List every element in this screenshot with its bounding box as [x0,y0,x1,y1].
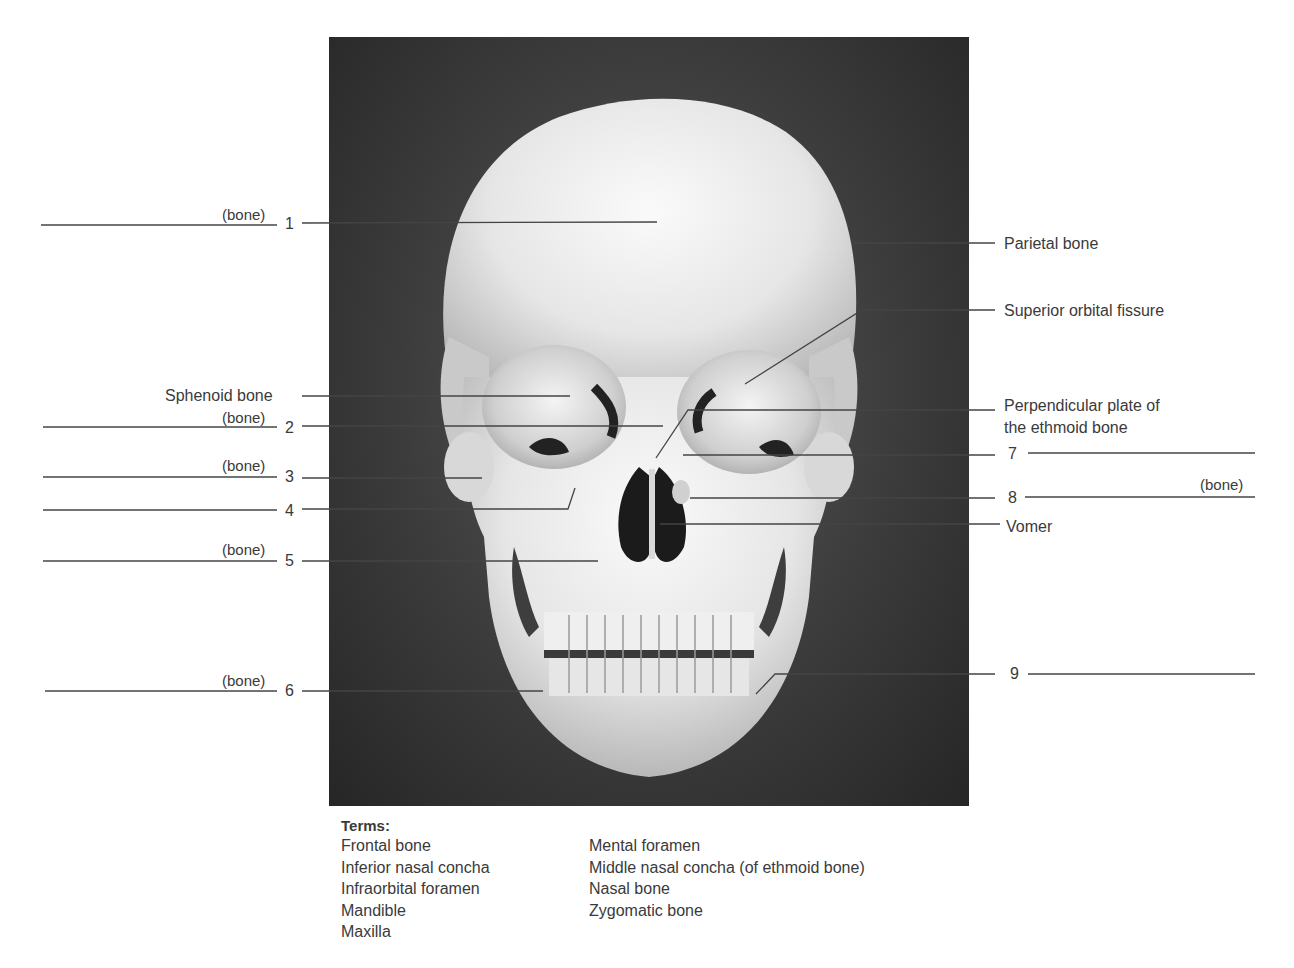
term-item: Infraorbital foramen [341,878,589,900]
label-superior-orbital-fissure: Superior orbital fissure [1004,302,1164,320]
term-item: Zygomatic bone [589,900,865,922]
answer-blank-6[interactable] [45,688,277,694]
label-8-number: 8 [1008,489,1017,507]
answer-blank-5[interactable] [43,558,277,564]
answer-blank-1[interactable] [41,222,277,228]
label-6-number: 6 [285,682,294,700]
terms-column-1: Frontal bone Inferior nasal concha Infra… [341,835,589,943]
label-8-bone-suffix: (bone) [1200,476,1243,494]
term-item: Middle nasal concha (of ethmoid bone) [589,857,865,879]
label-5-bone-suffix: (bone) [222,541,265,559]
label-9-number: 9 [1010,665,1019,683]
term-item: Mental foramen [589,835,865,857]
label-7-number: 7 [1008,445,1017,463]
term-item: Frontal bone [341,835,589,857]
label-3-number: 3 [285,468,294,486]
answer-blank-4[interactable] [43,507,277,513]
answer-blank-7[interactable] [1028,450,1255,456]
term-item: Mandible [341,900,589,922]
terms-list: Terms: Frontal bone Inferior nasal conch… [341,817,865,943]
label-perpendicular-plate-line1: Perpendicular plate of [1004,397,1160,415]
label-3-bone-suffix: (bone) [222,457,265,475]
skull-photo [329,37,969,806]
skull-illustration [329,37,969,806]
answer-blank-3[interactable] [43,474,277,480]
terms-title: Terms: [341,817,865,835]
label-perpendicular-plate-line2: the ethmoid bone [1004,419,1128,437]
label-1-number: 1 [285,215,294,233]
label-5-number: 5 [285,552,294,570]
label-2-number: 2 [285,419,294,437]
answer-blank-2[interactable] [43,424,277,430]
answer-blank-9[interactable] [1028,671,1255,677]
answer-blank-8[interactable] [1025,494,1255,500]
term-item: Maxilla [341,921,589,943]
terms-column-2: Mental foramen Middle nasal concha (of e… [589,835,865,943]
label-vomer: Vomer [1006,518,1052,536]
label-sphenoid-bone: Sphenoid bone [165,387,273,405]
term-item: Nasal bone [589,878,865,900]
label-4-number: 4 [285,502,294,520]
label-parietal-bone: Parietal bone [1004,235,1098,253]
term-item: Inferior nasal concha [341,857,589,879]
